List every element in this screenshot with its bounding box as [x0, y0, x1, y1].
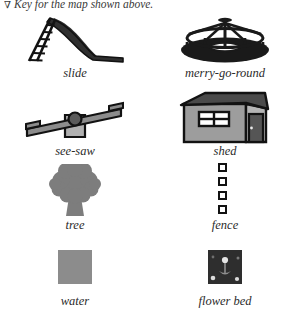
legend-item-fence: fence: [150, 162, 300, 242]
legend-item-shed: shed: [150, 88, 300, 168]
legend-item-water: water: [0, 238, 150, 318]
merry-go-round-icon: [171, 14, 279, 64]
water-swatch-icon: [58, 250, 92, 284]
see-saw-icon-box: [0, 88, 150, 146]
legend-item-flower-bed: flower bed: [150, 238, 300, 318]
fence-icon: [218, 163, 232, 219]
legend-grid: slide: [0, 10, 301, 330]
legend-item-label: slide: [0, 66, 150, 81]
legend-item-label: flower bed: [150, 294, 300, 309]
water-swatch-icon-box: [0, 238, 150, 296]
legend-item-label: fence: [150, 218, 300, 233]
fence-icon-box: [150, 162, 300, 220]
legend-item-tree: tree: [0, 162, 150, 242]
see-saw-icon: [21, 93, 129, 141]
slide-icon: [23, 14, 127, 64]
legend-row: water: [0, 238, 301, 318]
flower-bed-swatch-icon-box: [150, 238, 300, 296]
legend-item-label: water: [0, 294, 150, 309]
slide-icon-box: [0, 10, 150, 68]
legend-row: see-saw: [0, 88, 301, 168]
tree-icon: [47, 164, 103, 218]
triangle-down-icon: ∇: [4, 0, 11, 10]
legend-header-text: Key for the map shown above.: [14, 0, 153, 10]
fence-post: [218, 205, 227, 214]
legend-row: tree fence: [0, 162, 301, 242]
fence-post: [218, 177, 227, 186]
shed-icon: [179, 90, 271, 144]
flower-bed-swatch-icon: [208, 250, 242, 284]
legend-item-label: tree: [0, 218, 150, 233]
shed-icon-box: [150, 88, 300, 146]
tree-icon-box: [0, 162, 150, 220]
legend-item-see-saw: see-saw: [0, 88, 150, 168]
legend-item-label: merry-go-round: [150, 66, 300, 81]
legend-item-slide: slide: [0, 10, 150, 90]
merry-go-round-icon-box: [150, 10, 300, 68]
legend-item-merry-go-round: merry-go-round: [150, 10, 300, 90]
legend-item-label: see-saw: [0, 144, 150, 159]
fence-post: [218, 191, 227, 200]
fence-post: [218, 163, 227, 172]
legend-item-label: shed: [150, 144, 300, 159]
legend-row: slide: [0, 10, 301, 90]
